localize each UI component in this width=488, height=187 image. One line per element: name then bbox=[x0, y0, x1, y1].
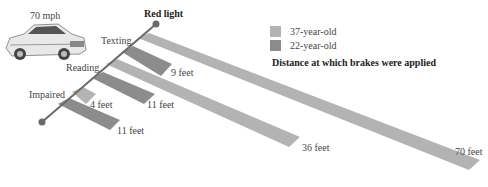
category-label-reading: Reading bbox=[66, 62, 99, 73]
pole-bottom-dot bbox=[39, 119, 46, 126]
value-impaired-22: 11 feet bbox=[117, 125, 144, 136]
legend-item-22: 22-year-old bbox=[270, 40, 336, 51]
chart-title: Distance at which brakes were applied bbox=[272, 57, 436, 68]
category-label-texting: Texting bbox=[101, 35, 131, 46]
value-impaired-37: 4 feet bbox=[90, 99, 113, 110]
pole-top-dot bbox=[153, 21, 160, 28]
legend: 37-year-old 22-year-old bbox=[270, 26, 336, 51]
legend-label-22: 22-year-old bbox=[290, 40, 336, 51]
legend-item-37: 37-year-old bbox=[270, 26, 336, 37]
braking-diagram bbox=[0, 0, 488, 187]
value-reading-37: 36 feet bbox=[302, 142, 330, 153]
value-texting-37: 70 feet bbox=[455, 146, 483, 157]
value-reading-22: 11 feet bbox=[147, 99, 174, 110]
value-texting-22: 9 feet bbox=[171, 67, 194, 78]
category-label-impaired: Impaired bbox=[29, 89, 65, 100]
legend-swatch-22 bbox=[270, 40, 281, 51]
legend-label-37: 37-year-old bbox=[290, 26, 336, 37]
legend-swatch-37 bbox=[270, 26, 281, 37]
